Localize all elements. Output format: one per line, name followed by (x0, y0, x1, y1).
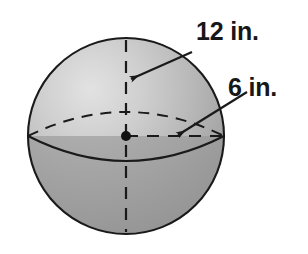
center-point-dot (121, 131, 131, 141)
radius-label: 6 in. (228, 73, 277, 101)
diameter-label: 12 in. (196, 17, 259, 45)
sphere-diagram: 12 in. 6 in. (0, 0, 308, 254)
